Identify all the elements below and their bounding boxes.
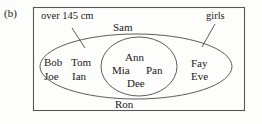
outer-set-label: over 145 cm — [41, 11, 94, 22]
inner-set-leader-line — [202, 24, 215, 47]
name-mia: Mia — [112, 65, 130, 76]
name-ron: Ron — [115, 99, 133, 110]
name-fay: Fay — [191, 58, 208, 69]
outer-set-leader-line — [72, 28, 85, 48]
name-tom: Tom — [71, 57, 91, 68]
name-pan: Pan — [146, 65, 163, 76]
name-bob: Bob — [44, 57, 62, 68]
name-ann: Ann — [125, 52, 144, 63]
part-label: (b) — [4, 8, 17, 19]
name-sam: Sam — [113, 22, 133, 33]
figure-panel: (b) over 145 cm girls Sam Ron Bob Joe To… — [0, 0, 262, 124]
name-eve: Eve — [191, 71, 208, 82]
name-ian: Ian — [72, 71, 86, 82]
name-joe: Joe — [44, 71, 59, 82]
inner-set-label: girls — [206, 11, 225, 22]
name-dee: Dee — [127, 78, 145, 89]
